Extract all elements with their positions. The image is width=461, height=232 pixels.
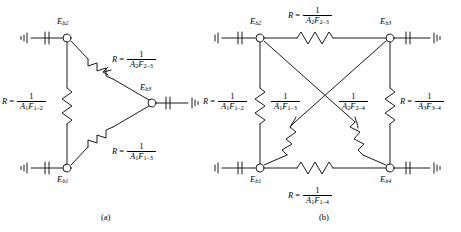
node-eb1-a bbox=[63, 164, 71, 172]
node-label-eb2-b: Eb2 bbox=[250, 16, 261, 26]
resistor-branch-1-2-b bbox=[255, 42, 265, 164]
resistor-label-1-2-b: R = 1 A1F1–2 bbox=[203, 92, 248, 112]
terminal-eb3-a bbox=[156, 97, 198, 109]
panel-caption-b: (b) bbox=[319, 212, 329, 222]
terminal-eb2-b bbox=[215, 32, 256, 44]
resistor-branch-1-4-b bbox=[264, 162, 386, 174]
resistor-label-1-3-a: R = 1 A1F1–3 bbox=[112, 142, 157, 162]
leader-2-4-b bbox=[355, 117, 358, 128]
node-label-eb4-b: Eb4 bbox=[380, 174, 391, 184]
node-label-eb2-a: Eb2 bbox=[57, 16, 68, 26]
resistor-branch-1-2-a bbox=[62, 42, 72, 164]
terminal-eb4-b bbox=[394, 162, 440, 174]
resistor-label-1-2-a: R = 1 A1F1–2 bbox=[2, 92, 47, 112]
node-eb3-a bbox=[148, 99, 156, 107]
radiation-network-figure: Eb2 Eb1 Eb3 R = 1 A1F1–2 R = 1 A2F2–3 R … bbox=[0, 0, 461, 232]
terminal-eb2-a bbox=[21, 32, 63, 44]
resistor-label-2-3-a: R = 1 A2F2–3 bbox=[112, 50, 157, 70]
node-eb3-b bbox=[386, 34, 394, 42]
node-label-eb3-b: Eb3 bbox=[380, 16, 391, 26]
resistor-branch-2-3-b bbox=[264, 32, 386, 44]
resistor-label-2-3-b: R = 1 A2F2–3 bbox=[288, 6, 333, 26]
resistor-label-1-3-b: 1 A1F1–3 bbox=[270, 92, 301, 112]
resistor-label-3-4-b: R = 1 A3F3–4 bbox=[400, 92, 445, 112]
node-label-eb1-b: Eb1 bbox=[250, 174, 261, 184]
node-eb2-b bbox=[256, 34, 264, 42]
terminal-eb3-b bbox=[394, 32, 440, 44]
node-eb4-b bbox=[386, 164, 394, 172]
resistor-branch-3-4-b bbox=[385, 42, 395, 164]
resistor-label-1-4-b: R = 1 A1F1–4 bbox=[288, 186, 333, 206]
terminal-eb1-a bbox=[21, 162, 63, 174]
resistor-label-2-4-b: 1 A2F2–4 bbox=[338, 92, 369, 112]
node-label-eb1-a: Eb1 bbox=[57, 174, 68, 184]
node-eb2-a bbox=[63, 34, 71, 42]
node-label-eb3-a: Eb3 bbox=[140, 82, 151, 92]
figure-canvas bbox=[0, 0, 461, 232]
terminal-eb1-b bbox=[215, 162, 256, 174]
node-eb1-b bbox=[256, 164, 264, 172]
panel-caption-a: (a) bbox=[101, 212, 110, 222]
